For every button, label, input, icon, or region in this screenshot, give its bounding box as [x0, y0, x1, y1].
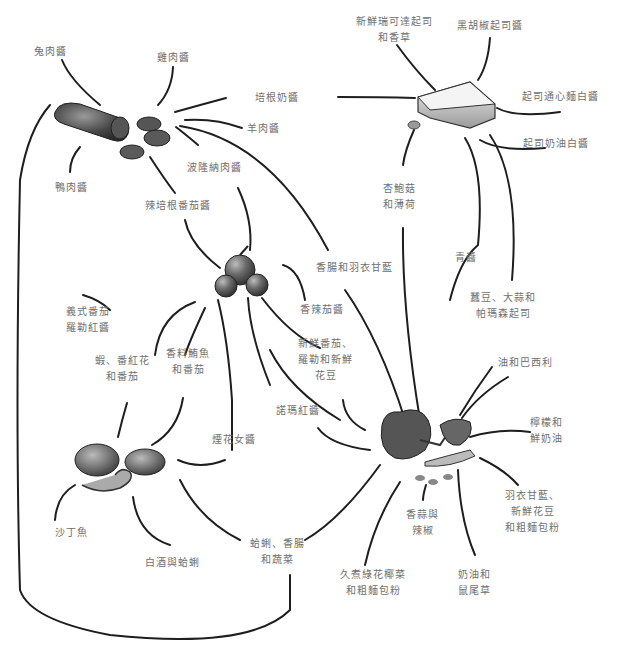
label-line: 羅勒和新鮮 [298, 352, 353, 368]
label-line: 羽衣甘藍、 [505, 488, 560, 504]
salami-illustration [54, 103, 170, 159]
label-spicy-bacon-tomato: 辣培根番茄醬 [145, 198, 211, 214]
label-pesto: 青醬 [455, 250, 477, 266]
label-chicken-sauce: 雞肉醬 [157, 50, 190, 66]
label-duck-sauce: 鴨肉醬 [55, 180, 88, 196]
label-rabbit-sauce: 兔肉醬 [34, 44, 67, 60]
label-line: 羅勒紅醬 [66, 320, 110, 336]
label-line: 鮮奶油 [530, 431, 563, 447]
label-line: 蝦、番紅花 [95, 353, 150, 369]
label-line: 黑胡椒起司醬 [457, 18, 523, 34]
label-line: 和香草 [356, 30, 433, 46]
label-line: 檸檬和 [530, 415, 563, 431]
label-line: 白酒與蛤蜊 [145, 555, 200, 571]
label-garlic-chili: 香蒜與辣椒 [406, 507, 439, 539]
label-line: 香蒜與 [406, 507, 439, 523]
label-sausage-kale: 香腸和羽衣甘藍 [316, 260, 393, 276]
label-sardine: 沙丁魚 [55, 525, 88, 541]
label-clams-sausage-veg: 蛤蜊、香腸和蔬菜 [250, 536, 305, 568]
label-line: 久煮綠花椰菜 [340, 567, 406, 583]
label-line: 鼠尾草 [458, 583, 491, 599]
label-line: 鴨肉醬 [55, 180, 88, 196]
broccoli-illustration [381, 410, 475, 485]
label-line: 花豆 [298, 368, 353, 384]
label-line: 沙丁魚 [55, 525, 88, 541]
cheese-illustration [408, 82, 495, 129]
label-line: 新鮮瑞可達起司 [356, 14, 433, 30]
label-line: 新鮮番茄、 [298, 336, 353, 352]
label-line: 帕瑪森起司 [470, 306, 536, 322]
label-italian-tomato-basil: 義式番茄羅勒紅醬 [66, 304, 110, 336]
label-line: 雞肉醬 [157, 50, 190, 66]
label-spiced-tuna: 香料鮪魚和番茄 [166, 346, 210, 378]
label-butter-sage: 奶油和鼠尾草 [458, 567, 491, 599]
label-arrabbiata: 香辣茄醬 [300, 302, 344, 318]
label-cheese-cream-white: 起司奶油白醬 [523, 136, 589, 152]
label-line: 辣椒 [406, 523, 439, 539]
label-line: 義式番茄 [66, 304, 110, 320]
label-lamb-sauce: 羊肉醬 [247, 121, 280, 137]
label-oil-parsley: 油和巴西利 [498, 355, 553, 371]
label-line: 起司通心麵白醬 [522, 89, 599, 105]
label-bolognese: 波隆納肉醬 [187, 160, 242, 176]
label-fresh-tomato-basil-peas: 新鮮番茄、羅勒和新鮮花豆 [298, 336, 353, 384]
label-line: 和粗麵包粉 [340, 583, 406, 599]
label-line: 和薄荷 [383, 197, 416, 213]
label-line: 青醬 [455, 250, 477, 266]
label-line: 杏鮑菇 [383, 181, 416, 197]
label-line: 奶油和 [458, 567, 491, 583]
label-white-wine-clams: 白酒與蛤蜊 [145, 555, 200, 571]
label-lemon-cream: 檸檬和鮮奶油 [530, 415, 563, 447]
label-line: 和蔬菜 [250, 552, 305, 568]
label-line: 新鮮花豆 [505, 504, 560, 520]
label-line: 和粗麵包粉 [505, 520, 560, 536]
label-mushroom-mint: 杏鮑菇和薄荷 [383, 181, 416, 213]
label-line: 羊肉醬 [247, 121, 280, 137]
label-line: 諾瑪紅醬 [276, 403, 320, 419]
label-norma: 諾瑪紅醬 [276, 403, 320, 419]
label-line: 辣培根番茄醬 [145, 198, 211, 214]
label-line: 蛤蜊、香腸 [250, 536, 305, 552]
label-line: 油和巴西利 [498, 355, 553, 371]
label-line: 蠶豆、大蒜和 [470, 290, 536, 306]
label-shrimp-saffron: 蝦、番紅花和番茄 [95, 353, 150, 385]
label-peas-garlic-parmesan: 蠶豆、大蒜和帕瑪森起司 [470, 290, 536, 322]
label-puttanesca: 煙花女醬 [212, 432, 256, 448]
label-kale-peas-breadcrumb: 羽衣甘藍、新鮮花豆和粗麵包粉 [505, 488, 560, 536]
seafood-illustration [75, 444, 165, 491]
label-black-pepper-cheese: 黑胡椒起司醬 [457, 18, 523, 34]
label-stewed-broccoli-breadcrumb: 久煮綠花椰菜和粗麵包粉 [340, 567, 406, 599]
label-line: 香腸和羽衣甘藍 [316, 260, 393, 276]
label-line: 波隆納肉醬 [187, 160, 242, 176]
label-line: 起司奶油白醬 [523, 136, 589, 152]
label-line: 香辣茄醬 [300, 302, 344, 318]
label-line: 和番茄 [166, 362, 210, 378]
label-bacon-cream: 培根奶醬 [255, 90, 299, 106]
label-line: 煙花女醬 [212, 432, 256, 448]
label-line: 和番茄 [95, 369, 150, 385]
label-line: 培根奶醬 [255, 90, 299, 106]
label-ricotta-herbs: 新鮮瑞可達起司和香草 [356, 14, 433, 46]
label-line: 兔肉醬 [34, 44, 67, 60]
label-mac-cheese: 起司通心麵白醬 [522, 89, 599, 105]
label-line: 香料鮪魚 [166, 346, 210, 362]
tomato-illustration [215, 246, 268, 297]
